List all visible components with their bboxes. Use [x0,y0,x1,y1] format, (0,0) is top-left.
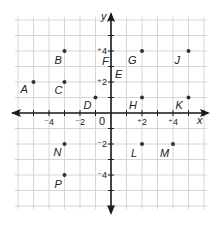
point-dot [94,96,98,100]
y-tick-label: ⁻2 [97,139,107,149]
point-label: F [102,55,110,67]
point-dot [63,173,67,177]
point-dot [63,142,67,146]
y-tick-label: ⁻4 [97,170,107,180]
point-f: F [102,55,110,67]
y-tick-label: ⁺2 [97,77,107,87]
point-j: J [174,49,191,66]
point-dot [140,49,144,53]
point-dot [32,80,36,84]
point-label: G [128,54,137,66]
point-dot [187,49,191,53]
x-axis-label: x [196,114,203,126]
point-label: C [55,84,63,96]
point-label: H [129,99,137,111]
axes: x y 0 [11,10,210,215]
x-tick-label: ⁺4 [168,117,178,127]
point-dot [63,80,67,84]
coordinate-plane: x y 0 ⁻4⁻2⁺2⁺4⁺4⁺2⁻2⁻4 ABCDEFGHJKLMNP [0,0,217,227]
point-label: P [55,178,63,190]
point-dot [187,96,191,100]
point-e: E [115,68,123,80]
point-dot [140,96,144,100]
point-dot [171,142,175,146]
point-dot [63,49,67,53]
point-label: L [131,147,137,159]
point-label: J [174,54,181,66]
point-label: K [176,99,184,111]
point-dot [140,142,144,146]
point-label: M [160,147,170,159]
x-tick-label: ⁻4 [44,117,54,127]
point-label: D [84,99,92,111]
point-label: N [54,146,62,158]
point-label: E [115,68,123,80]
x-tick-label: ⁺2 [137,117,147,127]
x-tick-label: ⁻2 [75,117,85,127]
origin-label: 0 [99,115,105,127]
point-label: B [55,54,62,66]
point-label: A [20,83,28,95]
